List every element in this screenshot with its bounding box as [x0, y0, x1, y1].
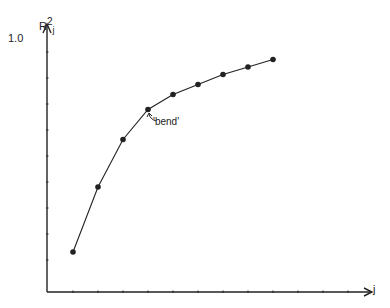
data-point — [270, 57, 276, 63]
data-point — [145, 107, 151, 113]
data-point — [70, 249, 76, 255]
y-max-label: 1.0 — [8, 32, 23, 44]
y-axis-label-text: R — [39, 20, 47, 32]
y-axis-label: R2j — [39, 16, 55, 35]
data-point — [195, 82, 201, 88]
bend-annotation: 'bend' — [153, 116, 179, 127]
data-point — [170, 92, 176, 98]
x-axis-label: j — [373, 283, 375, 295]
y-axis-label-sub: j — [53, 25, 55, 35]
data-point — [95, 184, 101, 190]
axes — [43, 24, 372, 296]
data-point — [120, 137, 126, 143]
data-point — [245, 64, 251, 70]
data-series — [70, 57, 276, 255]
data-point — [220, 72, 226, 78]
chart-svg — [0, 0, 390, 308]
